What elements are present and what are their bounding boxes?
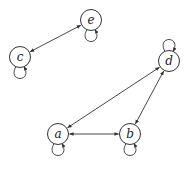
self-loop-b [124, 144, 136, 156]
nodes-layer: cedab [10, 10, 180, 145]
self-loop-c [14, 67, 26, 79]
node-c: c [10, 47, 31, 68]
self-loop-e [85, 30, 97, 42]
node-label: e [87, 13, 94, 27]
self-loop-d [163, 40, 175, 52]
edges-layer [14, 25, 175, 155]
node-label: a [54, 127, 61, 141]
node-d: d [159, 51, 180, 72]
node-label: d [165, 54, 173, 68]
edge-d-a [68, 67, 160, 127]
node-b: b [120, 124, 141, 145]
node-label: b [126, 127, 134, 141]
edge-c-e [30, 25, 81, 51]
graph-canvas: cedab [0, 0, 192, 169]
node-a: a [48, 124, 69, 145]
edge-d-b [135, 71, 163, 124]
self-loop-a [52, 144, 64, 156]
node-e: e [81, 10, 102, 31]
node-label: c [17, 50, 24, 64]
